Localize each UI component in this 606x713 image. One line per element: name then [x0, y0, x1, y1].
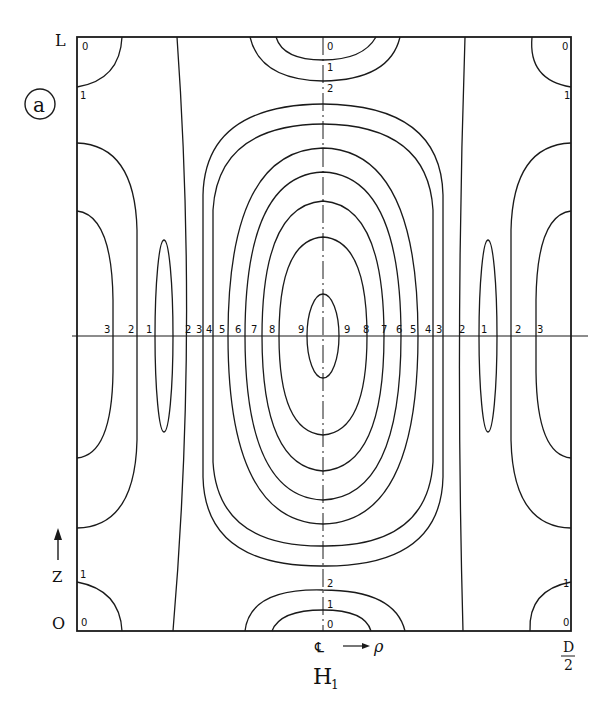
svg-text:4: 4	[206, 324, 212, 335]
svg-text:1: 1	[80, 90, 86, 101]
svg-text:0: 0	[81, 617, 87, 628]
title-subscript: 1	[331, 678, 339, 692]
svg-text:2: 2	[128, 324, 134, 335]
svg-text:6: 6	[396, 324, 402, 335]
svg-text:7: 7	[381, 324, 387, 335]
svg-text:0: 0	[327, 619, 333, 630]
svg-text:5: 5	[410, 324, 416, 335]
midline-labels-right: 9 8 7 6 5 4 3 2 1 2 3	[344, 324, 543, 335]
svg-text:2: 2	[459, 324, 465, 335]
svg-text:7: 7	[251, 324, 257, 335]
centerline-symbol: ℄	[314, 639, 324, 655]
rho-arrow-head-icon	[362, 643, 370, 649]
panel-label: a	[33, 93, 45, 117]
svg-text:1: 1	[327, 599, 333, 610]
svg-text:6: 6	[235, 324, 241, 335]
midline-labels-left: 3 2 1 2 3 4 5 6 7 8 9	[104, 324, 304, 335]
svg-text:1: 1	[327, 62, 333, 73]
svg-text:8: 8	[269, 324, 275, 335]
svg-text:2: 2	[185, 324, 191, 335]
title-H: H	[313, 664, 332, 689]
svg-text:2: 2	[515, 324, 521, 335]
svg-text:2: 2	[327, 578, 333, 589]
svg-text:5: 5	[219, 324, 225, 335]
rho-label: ρ	[373, 637, 384, 656]
svg-text:2: 2	[327, 83, 333, 94]
svg-text:4: 4	[425, 324, 431, 335]
svg-text:9: 9	[298, 324, 304, 335]
origin-label: O	[52, 614, 65, 633]
svg-text:8: 8	[363, 324, 369, 335]
svg-text:1: 1	[563, 578, 569, 589]
svg-text:3: 3	[436, 324, 442, 335]
z-arrow-head-icon	[54, 528, 62, 540]
z-axis-label: Z	[52, 568, 62, 586]
svg-text:0: 0	[82, 41, 88, 52]
svg-text:1: 1	[481, 324, 487, 335]
d-label: D	[563, 639, 574, 655]
svg-text:1: 1	[80, 569, 86, 580]
svg-text:3: 3	[104, 324, 110, 335]
svg-text:0: 0	[562, 41, 568, 52]
svg-text:3: 3	[537, 324, 543, 335]
svg-text:0: 0	[327, 41, 333, 52]
svg-text:0: 0	[563, 617, 569, 628]
svg-text:9: 9	[344, 324, 350, 335]
contour-diagram: L a Z O ℄ ρ H 1 D 2 0 1 0 1 1 0 1 0 0 1 …	[0, 0, 606, 713]
svg-text:1: 1	[146, 324, 152, 335]
svg-text:1: 1	[564, 90, 570, 101]
two-label: 2	[564, 657, 573, 673]
svg-text:3: 3	[196, 324, 202, 335]
label-L: L	[55, 31, 66, 50]
